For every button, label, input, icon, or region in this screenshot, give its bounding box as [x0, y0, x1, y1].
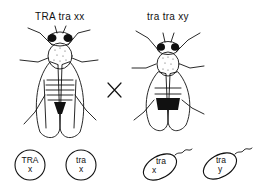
sperm-2-chromosome: y — [210, 165, 234, 174]
female-fly-icon — [20, 26, 98, 138]
egg-2-label: tra x — [69, 156, 93, 174]
sperm-2-label: tra y — [210, 156, 234, 174]
male-fly-icon — [132, 31, 204, 131]
cross-symbol — [108, 83, 121, 97]
egg-1-chromosome: x — [18, 165, 42, 174]
sperm-1-chromosome: x — [150, 166, 174, 175]
sperm-2-gene: tra — [210, 156, 234, 165]
sperm-1-label: tra x — [150, 157, 174, 175]
egg-2-chromosome: x — [69, 165, 93, 174]
egg-1-label: TRA x — [18, 156, 42, 174]
